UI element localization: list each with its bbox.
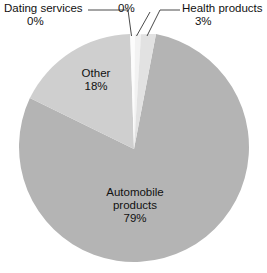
slice-label-zero: 0%	[118, 2, 135, 15]
slice-label-dating-services: Dating services 0%	[4, 2, 83, 28]
slice-label-automobile-products-name-line1: Automobile	[106, 186, 164, 198]
slice-label-automobile-products: Automobile products 79%	[85, 186, 185, 225]
leader-line-zero	[137, 12, 151, 36]
slice-label-zero-percent: 0%	[118, 2, 135, 14]
slice-label-other-name: Other	[82, 67, 111, 79]
slice-label-dating-services-percent: 0%	[4, 15, 83, 28]
slice-label-other: Other 18%	[66, 67, 126, 93]
slice-label-automobile-products-name-line2: products	[85, 199, 185, 212]
slice-label-dating-services-name: Dating services	[4, 2, 83, 14]
slice-label-health-products: Health products 3%	[182, 2, 263, 28]
slice-label-health-products-percent: 3%	[182, 15, 263, 28]
pie-chart-canvas	[0, 0, 267, 273]
slice-label-automobile-products-percent: 79%	[85, 212, 185, 225]
slice-label-health-products-name: Health products	[182, 2, 263, 14]
leader-line-health-products	[147, 10, 180, 36]
pie-chart: Dating services 0% 0% Health products 3%…	[0, 0, 267, 273]
slice-label-other-percent: 18%	[66, 80, 126, 93]
